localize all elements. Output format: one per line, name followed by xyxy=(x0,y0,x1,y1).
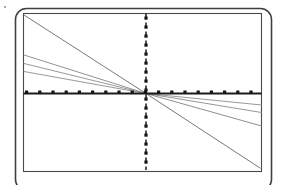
axis-dot-marker xyxy=(144,98,147,101)
line-8-steep-lower-right xyxy=(146,94,260,169)
axis-dot-marker xyxy=(65,91,68,94)
frame-group xyxy=(16,9,272,186)
axis-dot-marker xyxy=(170,91,173,94)
axis-dot-marker xyxy=(236,91,239,94)
rounded-outer-frame xyxy=(16,9,272,186)
axis-dot-marker xyxy=(157,91,160,94)
line-2-shallow-upper-left xyxy=(24,55,146,94)
axis-dot-marker xyxy=(144,152,147,155)
axis-dot-marker xyxy=(144,143,147,146)
axis-dot-marker xyxy=(78,91,81,94)
axis-dot-marker xyxy=(210,91,213,94)
axis-dot-marker xyxy=(144,125,147,128)
axis-dot-marker xyxy=(183,91,186,94)
axis-dot-marker xyxy=(131,91,134,94)
axis-dot-marker xyxy=(144,53,147,56)
axis-dot-marker xyxy=(144,89,147,92)
figure-root xyxy=(0,0,284,185)
axis-dot-marker xyxy=(144,107,147,110)
axis-dot-marker xyxy=(197,91,200,94)
axis-dot-marker xyxy=(144,26,147,29)
axis-dot-marker xyxy=(91,91,94,94)
axis-dot-marker xyxy=(144,17,147,20)
axis-dot-marker xyxy=(144,44,147,47)
axis-dot-marker xyxy=(144,71,147,74)
axis-dot-marker xyxy=(117,91,120,94)
axis-dot-marker xyxy=(144,116,147,119)
axis-dot-marker xyxy=(144,35,147,38)
axis-dot-marker xyxy=(25,91,28,94)
axis-dot-marker xyxy=(144,80,147,83)
axis-dot-marker xyxy=(38,91,41,94)
axis-dot-marker xyxy=(144,62,147,65)
line-3-shallow-upper-left xyxy=(24,64,146,94)
line-graph-svg xyxy=(0,0,284,185)
axis-dot-marker xyxy=(249,91,252,94)
axis-dot-marker xyxy=(144,134,147,137)
axis-dot-marker xyxy=(144,161,147,164)
axis-dot-marker xyxy=(223,91,226,94)
axis-dot-marker xyxy=(104,91,107,94)
line-1-steep-upper-left xyxy=(24,15,146,94)
line-4-shallow-upper-left xyxy=(24,72,146,94)
axis-dot-marker xyxy=(51,91,54,94)
